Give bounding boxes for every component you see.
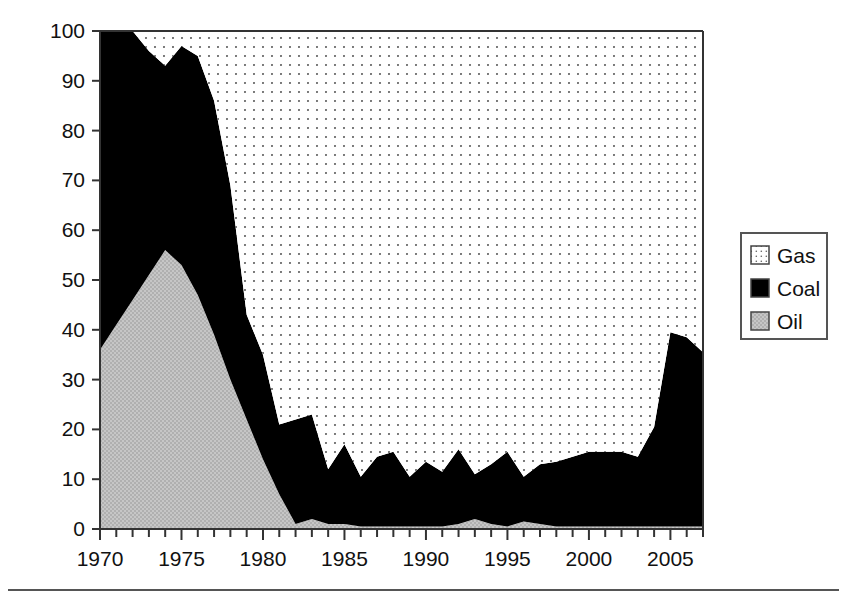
y-axis-title: Fossil-fired generation (%) [6, 0, 46, 40]
y-tick-label: 70 [62, 168, 85, 191]
figure-container: Fossil-fired generation (%) [0, 0, 847, 606]
bottom-divider [8, 589, 839, 591]
series-layer [100, 31, 703, 529]
legend-item-coal[interactable]: Coal [751, 277, 820, 300]
y-tick-label: 90 [62, 69, 85, 92]
chart-legend[interactable]: GasCoalOil [741, 233, 827, 339]
x-tick-label: 2000 [566, 547, 613, 570]
legend-swatch-gas-icon [751, 246, 769, 264]
legend-item-gas[interactable]: Gas [751, 244, 816, 267]
x-tick-label: 1980 [240, 547, 287, 570]
legend-swatch-coal-icon [751, 279, 769, 297]
x-tick-label: 2005 [647, 547, 694, 570]
legend-label: Coal [777, 277, 820, 300]
y-tick-label: 20 [62, 417, 85, 440]
y-tick-label: 100 [50, 19, 85, 42]
area-chart: 0102030405060708090100197019751980198519… [0, 0, 847, 606]
plot-area [100, 31, 703, 529]
legend-label: Gas [777, 244, 816, 267]
y-tick-label: 0 [73, 517, 85, 540]
legend-item-oil[interactable]: Oil [751, 310, 803, 333]
x-tick-label: 1970 [77, 547, 124, 570]
y-tick-label: 50 [62, 268, 85, 291]
y-tick-label: 40 [62, 318, 85, 341]
legend-swatch-oil-icon [751, 312, 769, 330]
y-tick-label: 30 [62, 368, 85, 391]
y-tick-label: 10 [62, 467, 85, 490]
x-tick-label: 1995 [484, 547, 531, 570]
x-tick-label: 1990 [403, 547, 450, 570]
legend-label: Oil [777, 310, 803, 333]
y-tick-label: 60 [62, 218, 85, 241]
x-tick-label: 1975 [158, 547, 205, 570]
x-tick-label: 1985 [321, 547, 368, 570]
y-tick-label: 80 [62, 119, 85, 142]
